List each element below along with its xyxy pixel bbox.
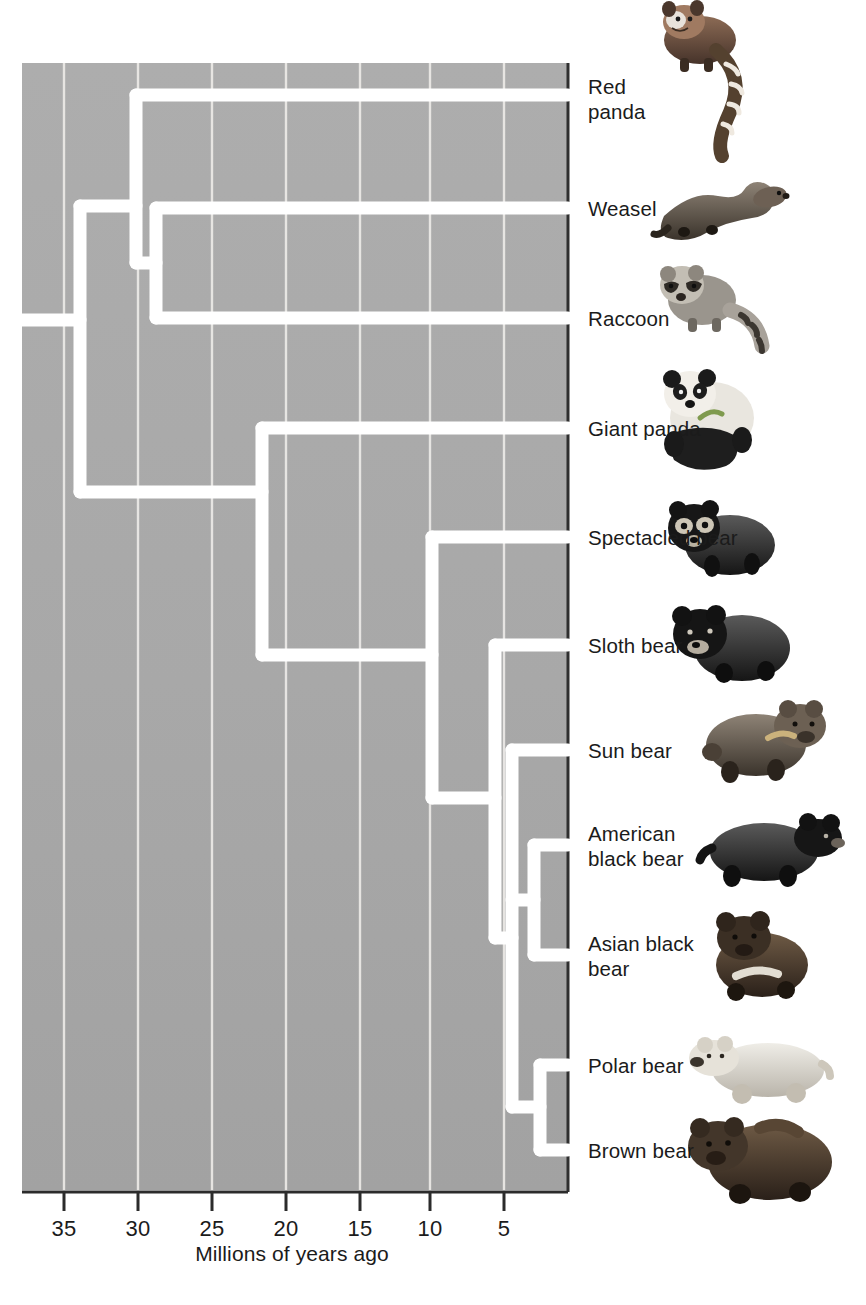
axis-tick-label-10: 10 xyxy=(417,1216,442,1242)
american-black-bear-illustration xyxy=(700,813,845,887)
taxon-label-red-panda: Red panda xyxy=(588,74,646,124)
taxon-label-weasel: Weasel xyxy=(588,196,657,221)
asian-black-bear-illustration xyxy=(716,911,808,1001)
sun-bear-illustration xyxy=(702,700,826,783)
axis-tick-label-35: 35 xyxy=(51,1216,76,1242)
taxon-label-sloth-bear: Sloth bear xyxy=(588,633,682,658)
taxon-label-polar-bear: Polar bear xyxy=(588,1053,684,1078)
weasel-illustration xyxy=(654,182,790,240)
tree-diagram xyxy=(0,0,866,1305)
taxon-label-brown-bear: Brown bear xyxy=(588,1138,694,1163)
axis-tick-label-25: 25 xyxy=(199,1216,224,1242)
brown-bear-illustration xyxy=(688,1117,832,1204)
raccoon-illustration xyxy=(660,265,762,351)
plot-panel-background xyxy=(22,63,568,1190)
polar-bear-illustration xyxy=(689,1036,830,1104)
taxon-label-american-black-bear: American black bear xyxy=(588,821,684,871)
axis-tick-label-5: 5 xyxy=(498,1216,511,1242)
taxon-label-asian-black-bear: Asian black bear xyxy=(588,931,694,981)
animal-illustrations xyxy=(654,0,845,1204)
sloth-bear-illustration xyxy=(672,605,790,683)
taxon-label-sun-bear: Sun bear xyxy=(588,738,672,763)
taxon-label-spectacled-bear: Spectacled bear xyxy=(588,525,738,550)
axis-tick-label-15: 15 xyxy=(347,1216,372,1242)
x-axis xyxy=(22,1192,568,1211)
taxon-label-giant-panda: Giant panda xyxy=(588,416,701,441)
taxon-label-raccoon: Raccoon xyxy=(588,306,670,331)
x-axis-title: Millions of years ago xyxy=(12,1242,572,1266)
red-panda-illustration xyxy=(662,0,742,156)
axis-tick-label-30: 30 xyxy=(125,1216,150,1242)
axis-tick-label-20: 20 xyxy=(273,1216,298,1242)
phylogenetic-tree-figure: Red panda Weasel Raccoon Giant panda Spe… xyxy=(0,0,866,1305)
